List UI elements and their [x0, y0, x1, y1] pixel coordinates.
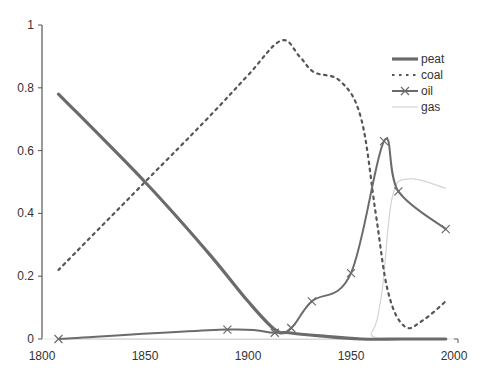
- series-coal-line: [58, 40, 445, 328]
- legend-item-peat: peat: [392, 52, 445, 66]
- y-tick-label: 0.8: [17, 81, 34, 95]
- legend-label: peat: [421, 52, 445, 66]
- y-tick-label: 0.6: [17, 144, 34, 158]
- legend-item-coal: coal: [392, 68, 443, 82]
- legend-label: coal: [421, 68, 443, 82]
- x-tick-label: 2000: [441, 349, 468, 363]
- x-tick-label: 1850: [132, 349, 159, 363]
- x-marker-icon: [380, 137, 388, 145]
- x-marker-icon: [308, 297, 316, 305]
- y-tick-label: 0: [27, 332, 34, 346]
- series-peat-line: [58, 94, 445, 339]
- series-gas-line: [58, 179, 445, 340]
- x-marker-icon: [347, 269, 355, 277]
- line-chart: 00.20.40.60.8118001850190019502000 peatc…: [0, 0, 483, 387]
- legend-item-oil: oil: [392, 84, 433, 98]
- series-oil-line: [58, 138, 445, 339]
- y-tick-label: 0.2: [17, 269, 34, 283]
- y-tick-label: 0.4: [17, 206, 34, 220]
- y-tick-label: 1: [27, 18, 34, 32]
- x-tick-label: 1900: [235, 349, 262, 363]
- x-marker-icon: [442, 225, 450, 233]
- legend-label: oil: [421, 84, 433, 98]
- x-marker-icon: [287, 324, 295, 332]
- legend: peatcoaloilgas: [392, 52, 445, 114]
- legend-label: gas: [421, 100, 440, 114]
- x-tick-label: 1800: [29, 349, 56, 363]
- series-group: [54, 40, 449, 343]
- x-tick-label: 1950: [338, 349, 365, 363]
- x-marker-icon: [394, 187, 402, 195]
- legend-item-gas: gas: [392, 100, 440, 114]
